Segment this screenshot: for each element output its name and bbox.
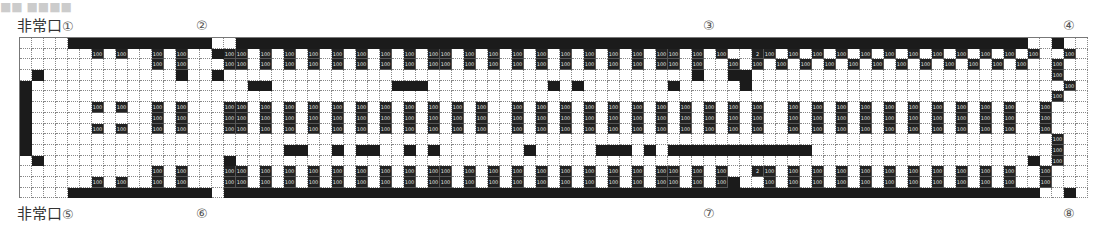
seat-cell[interactable]: 100: [752, 102, 764, 113]
seat-cell[interactable]: 100: [1040, 166, 1052, 177]
seat-cell[interactable]: 100: [632, 166, 644, 177]
seat-cell[interactable]: 100: [584, 102, 596, 113]
seat-cell[interactable]: 100: [788, 113, 800, 124]
seat-cell[interactable]: 100: [536, 124, 548, 135]
seat-cell[interactable]: 100: [116, 124, 128, 135]
seat-cell[interactable]: 100: [512, 49, 524, 60]
seat-cell[interactable]: 100: [380, 124, 392, 135]
seat-cell[interactable]: 100: [584, 113, 596, 124]
seat-cell[interactable]: 100: [428, 177, 440, 188]
seat-cell[interactable]: 100: [584, 177, 596, 188]
seat-cell[interactable]: 100: [860, 102, 872, 113]
seat-cell[interactable]: 100: [464, 49, 476, 60]
seat-cell-special[interactable]: 2: [752, 49, 764, 60]
seat-cell[interactable]: 100: [608, 124, 620, 135]
seat-cell[interactable]: 100: [632, 59, 644, 70]
seat-cell[interactable]: 100: [224, 177, 236, 188]
seat-cell[interactable]: 100: [1028, 49, 1040, 60]
seat-cell[interactable]: 100: [440, 177, 452, 188]
seat-cell[interactable]: 100: [176, 49, 188, 60]
seat-cell[interactable]: 100: [440, 59, 452, 70]
seat-cell[interactable]: 100: [968, 59, 980, 70]
seat-cell[interactable]: 100: [752, 59, 764, 70]
seat-cell[interactable]: 100: [1040, 177, 1052, 188]
seat-cell[interactable]: 100: [452, 113, 464, 124]
seat-cell[interactable]: 100: [632, 49, 644, 60]
seat-cell[interactable]: 100: [116, 102, 128, 113]
seat-cell[interactable]: 100: [1004, 102, 1016, 113]
seat-cell[interactable]: 100: [656, 177, 668, 188]
seat-cell[interactable]: 100: [1004, 124, 1016, 135]
seat-cell[interactable]: 100: [308, 113, 320, 124]
seat-cell[interactable]: 100: [680, 102, 692, 113]
seat-cell[interactable]: 100: [284, 102, 296, 113]
seat-cell[interactable]: 100: [860, 177, 872, 188]
seat-cell[interactable]: 100: [176, 177, 188, 188]
seat-cell[interactable]: 100: [260, 166, 272, 177]
seat-cell[interactable]: 100: [836, 113, 848, 124]
seat-cell[interactable]: 100: [668, 49, 680, 60]
seat-cell[interactable]: 100: [428, 102, 440, 113]
seat-cell[interactable]: 100: [284, 113, 296, 124]
seat-cell[interactable]: 100: [884, 49, 896, 60]
seat-cell[interactable]: 100: [404, 113, 416, 124]
seat-cell[interactable]: 100: [1064, 49, 1076, 60]
seat-cell[interactable]: 100: [260, 177, 272, 188]
seat-cell[interactable]: 100: [1040, 124, 1052, 135]
seat-cell[interactable]: 100: [932, 113, 944, 124]
seat-cell[interactable]: 100: [452, 124, 464, 135]
seat-cell[interactable]: 100: [884, 102, 896, 113]
seat-cell[interactable]: 100: [860, 49, 872, 60]
seat-cell[interactable]: 100: [404, 49, 416, 60]
seat-cell[interactable]: 100: [956, 113, 968, 124]
seat-cell[interactable]: 100: [536, 177, 548, 188]
seat-cell[interactable]: 100: [560, 102, 572, 113]
seat-cell[interactable]: 100: [956, 102, 968, 113]
seat-cell[interactable]: 100: [1052, 91, 1064, 102]
seat-cell[interactable]: 100: [356, 177, 368, 188]
seat-cell[interactable]: 100: [920, 59, 932, 70]
seat-cell[interactable]: 100: [764, 166, 776, 177]
seat-cell[interactable]: 100: [812, 49, 824, 60]
seat-cell[interactable]: 100: [980, 49, 992, 60]
seat-cell[interactable]: 100: [656, 113, 668, 124]
seat-cell[interactable]: 100: [428, 124, 440, 135]
seat-cell[interactable]: 100: [488, 49, 500, 60]
seat-cell[interactable]: 100: [1064, 81, 1076, 92]
seat-cell[interactable]: 100: [260, 59, 272, 70]
seat-cell[interactable]: 100: [692, 177, 704, 188]
seat-cell[interactable]: 100: [332, 124, 344, 135]
seat-cell[interactable]: 100: [860, 124, 872, 135]
seat-cell[interactable]: 100: [488, 59, 500, 70]
seat-cell[interactable]: 100: [356, 113, 368, 124]
seat-cell[interactable]: 100: [332, 113, 344, 124]
seat-cell[interactable]: 100: [224, 102, 236, 113]
seat-cell[interactable]: 100: [692, 166, 704, 177]
seat-cell[interactable]: 100: [752, 113, 764, 124]
seat-cell[interactable]: 100: [428, 49, 440, 60]
seat-cell[interactable]: 100: [812, 113, 824, 124]
seat-cell[interactable]: 100: [704, 102, 716, 113]
seat-cell[interactable]: 100: [728, 102, 740, 113]
seat-cell[interactable]: 100: [836, 49, 848, 60]
seat-cell[interactable]: 100: [776, 59, 788, 70]
seat-cell[interactable]: 100: [224, 49, 236, 60]
seat-cell[interactable]: 100: [536, 113, 548, 124]
seat-cell[interactable]: 100: [404, 166, 416, 177]
seat-cell[interactable]: 100: [152, 113, 164, 124]
seat-cell[interactable]: 100: [440, 166, 452, 177]
seat-cell[interactable]: 100: [908, 124, 920, 135]
seat-cell[interactable]: 100: [836, 177, 848, 188]
seat-cell[interactable]: 100: [1052, 59, 1064, 70]
seat-cell[interactable]: 100: [560, 177, 572, 188]
seat-cell[interactable]: 100: [1040, 113, 1052, 124]
seat-cell[interactable]: 100: [716, 49, 728, 60]
seat-cell[interactable]: 100: [764, 177, 776, 188]
seat-cell[interactable]: 100: [764, 49, 776, 60]
seat-cell[interactable]: 100: [584, 59, 596, 70]
seat-cell[interactable]: 100: [584, 49, 596, 60]
seat-cell[interactable]: 100: [512, 102, 524, 113]
seat-cell[interactable]: 100: [284, 177, 296, 188]
seat-cell[interactable]: 100: [236, 49, 248, 60]
seat-cell[interactable]: 100: [512, 124, 524, 135]
